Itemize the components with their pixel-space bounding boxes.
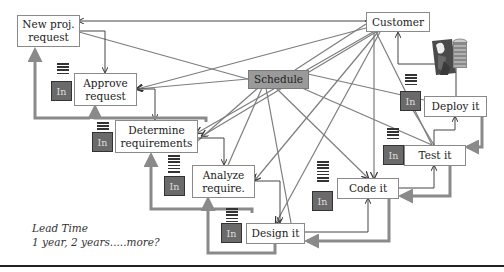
node-approve-request: Approve request — [74, 73, 137, 106]
node-deploy-it: Deploy it — [424, 96, 487, 117]
inbox-label: In — [57, 86, 67, 97]
node-code-it: Code it — [337, 178, 399, 199]
inbox-code: In — [312, 191, 333, 211]
lead-time-note: Lead Time 1 year, 2 years.....more? — [32, 221, 160, 249]
node-label: Customer — [372, 16, 424, 29]
queue-stack-icon — [317, 161, 329, 183]
inbox-design: In — [221, 223, 242, 243]
node-label: Determine requirements — [118, 124, 195, 150]
lead-time-title: Lead Time — [32, 221, 160, 235]
queue-stack-icon — [387, 128, 399, 141]
node-label: New proj. request — [20, 18, 77, 44]
node-analyze-requirements: Analyze require. — [192, 165, 255, 198]
inbox-label: In — [98, 137, 108, 148]
queue-stack-icon — [226, 208, 238, 224]
inbox-test: In — [383, 145, 404, 165]
inbox-label: In — [170, 181, 180, 192]
node-customer: Customer — [366, 12, 430, 32]
inbox-determine: In — [92, 132, 113, 152]
node-label: Deploy it — [432, 100, 480, 113]
node-determine-requirements: Determine requirements — [115, 120, 198, 153]
node-design-it: Design it — [246, 223, 305, 244]
server-and-person-icon — [430, 37, 470, 77]
queue-stack-icon — [57, 63, 69, 76]
queue-stack-icon — [97, 122, 109, 132]
inbox-approve: In — [51, 81, 72, 101]
inbox-deploy: In — [400, 91, 421, 111]
lead-time-value: 1 year, 2 years.....more? — [32, 235, 160, 249]
value-stream-diagram: New proj. request Approve request Determ… — [0, 0, 504, 272]
inbox-label: In — [318, 196, 328, 207]
node-label: Approve request — [77, 77, 134, 103]
node-label: Code it — [349, 182, 387, 195]
node-label: Design it — [252, 227, 300, 240]
bottom-divider — [0, 265, 504, 267]
queue-stack-icon — [405, 74, 417, 87]
inbox-analyze: In — [164, 176, 185, 196]
inbox-label: In — [389, 150, 399, 161]
node-schedule: Schedule — [248, 70, 309, 89]
inbox-label: In — [227, 228, 237, 239]
inbox-label: In — [406, 96, 416, 107]
node-new-request: New proj. request — [17, 15, 80, 47]
node-label: Test it — [419, 149, 452, 162]
node-label: Schedule — [254, 73, 303, 86]
node-label: Analyze require. — [195, 169, 252, 195]
node-test-it: Test it — [404, 145, 466, 166]
queue-stack-icon — [168, 155, 180, 174]
